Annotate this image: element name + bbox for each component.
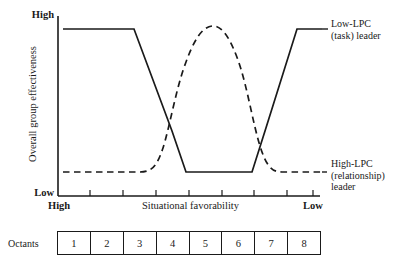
octant-cell-5: 5: [189, 231, 223, 255]
y-axis-low-label: Low: [12, 187, 54, 199]
octant-cell-6: 6: [221, 231, 255, 255]
legend-high-lpc-line1: High-LPC: [331, 158, 385, 170]
legend-low-lpc-line2: (task) leader: [331, 30, 381, 42]
legend-label-low-lpc: Low-LPC (task) leader: [331, 18, 381, 41]
octants-label: Octants: [8, 238, 39, 250]
fiedler-contingency-chart: High Low Overall group effectiveness Hig…: [0, 0, 416, 269]
octant-cell-8: 8: [287, 231, 321, 255]
legend-high-lpc-line2: (relationship): [331, 170, 385, 182]
y-axis-title: Overall group effectiveness: [27, 34, 39, 174]
legend-low-lpc-line1: Low-LPC: [331, 18, 381, 30]
series-high-lpc-curve: [63, 26, 322, 172]
legend-label-high-lpc: High-LPC (relationship) leader: [331, 158, 385, 193]
octant-cell-7: 7: [254, 231, 288, 255]
x-axis-high-label: High: [48, 200, 70, 212]
x-axis-title: Situational favorability: [118, 200, 263, 212]
octant-cell-2: 2: [90, 231, 124, 255]
y-axis-high-label: High: [12, 9, 54, 21]
x-axis-low-label: Low: [303, 200, 323, 212]
octant-cell-1: 1: [57, 231, 91, 255]
legend-high-lpc-line3: leader: [331, 181, 385, 193]
octant-cell-4: 4: [156, 231, 190, 255]
series-low-lpc-curve: [63, 29, 322, 172]
octant-cell-3: 3: [123, 231, 157, 255]
x-axis-ticks: [90, 190, 313, 196]
